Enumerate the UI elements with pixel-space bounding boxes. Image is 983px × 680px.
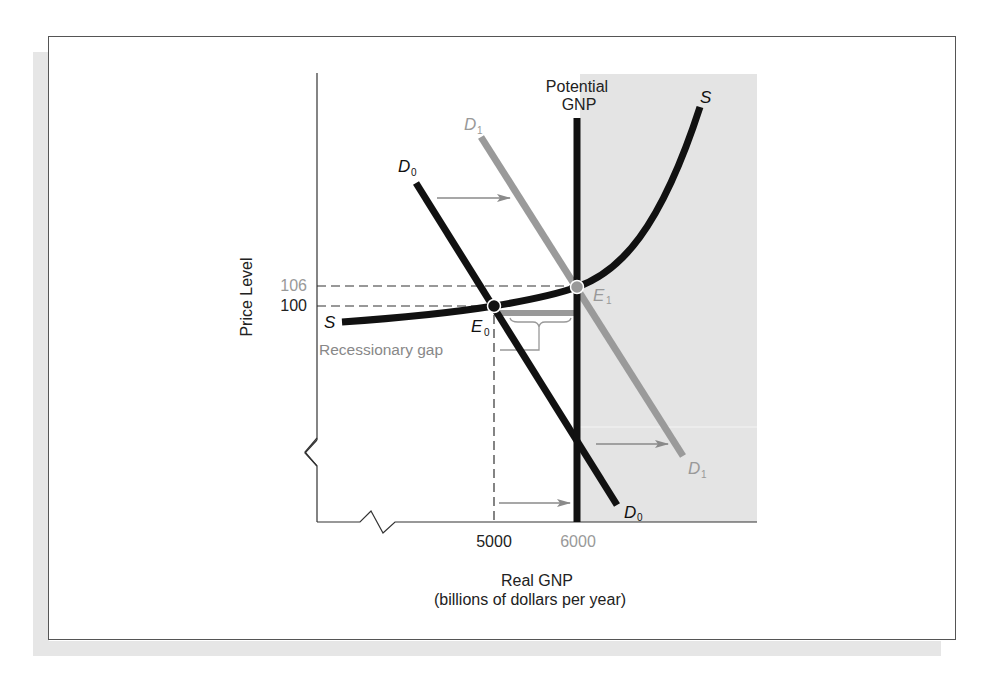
d1-top-label: D 1 bbox=[464, 115, 483, 136]
y-tick-100: 100 bbox=[280, 297, 307, 314]
x-tick-5000: 5000 bbox=[476, 533, 512, 550]
svg-text:D: D bbox=[688, 459, 700, 478]
svg-text:0: 0 bbox=[411, 167, 417, 178]
svg-text:D: D bbox=[464, 115, 476, 134]
svg-text:E: E bbox=[471, 317, 483, 336]
svg-text:1: 1 bbox=[477, 125, 483, 136]
e0-label: E 0 bbox=[471, 317, 490, 338]
y-axis-title: Price Level bbox=[238, 257, 255, 336]
recessionary-gap-label: Recessionary gap bbox=[319, 341, 443, 358]
svg-text:0: 0 bbox=[484, 327, 490, 338]
chart-canvas: Potential GNP S S D 1 D 0 D 1 D 0 E 0 E … bbox=[0, 0, 983, 680]
d0-top-label: D 0 bbox=[398, 157, 417, 178]
svg-text:1: 1 bbox=[606, 295, 612, 306]
s-top-label: S bbox=[700, 88, 712, 107]
svg-text:0: 0 bbox=[637, 512, 643, 523]
y-axis-break-icon bbox=[305, 440, 317, 466]
e1-point bbox=[571, 281, 584, 294]
x-axis-subtitle: (billions of dollars per year) bbox=[434, 591, 626, 608]
svg-text:E: E bbox=[593, 286, 605, 305]
svg-text:D: D bbox=[624, 503, 636, 522]
svg-text:D: D bbox=[398, 157, 410, 176]
potential-label-line1: Potential bbox=[546, 78, 608, 95]
svg-text:1: 1 bbox=[701, 469, 707, 480]
y-tick-106: 106 bbox=[280, 277, 307, 294]
x-axis-title: Real GNP bbox=[501, 572, 573, 589]
e0-point bbox=[488, 300, 501, 313]
x-tick-6000: 6000 bbox=[560, 533, 596, 550]
potential-label-line2: GNP bbox=[562, 96, 597, 113]
s-left-label: S bbox=[324, 313, 336, 332]
